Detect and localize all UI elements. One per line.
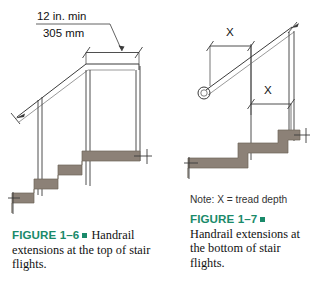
tread-depth-note: Note: X = tread depth [190, 194, 312, 205]
leader-arrowhead [119, 46, 125, 52]
figure-1-7-caption-text: Handrail extensions at the bottom of sta… [190, 227, 300, 270]
handrail-end-tick [11, 113, 20, 124]
square-bullet-icon [260, 217, 265, 222]
figure-page: 12 in. min 305 mm [0, 0, 312, 296]
figure-1-7-label: FIGURE 1–7 [190, 212, 257, 225]
handrail-top-line [17, 64, 139, 117]
figure-1-6-caption: FIGURE 1–6 Handrail extensions at the to… [12, 228, 164, 272]
square-bullet-icon [82, 233, 87, 238]
stair-profile [188, 130, 300, 178]
handrail-bottom-line [19, 70, 135, 122]
stair-profile [12, 151, 140, 213]
figure-1-7-illustration: X X [178, 0, 312, 195]
dimension-label-x-upper: X [226, 25, 234, 38]
dimension-label-metric: 305 mm [43, 27, 84, 39]
handrail-return-circle-outer [198, 87, 210, 99]
figure-1-6-label: FIGURE 1–6 [12, 228, 79, 241]
figure-1-6-illustration: 12 in. min 305 mm [0, 0, 178, 230]
handrail-return-circle-inner [201, 90, 207, 96]
figure-1-7-caption: FIGURE 1–7 Handrail extensions at the bo… [190, 212, 310, 270]
dimension-label-imperial: 12 in. min [37, 10, 86, 22]
handrail-top-line [206, 27, 292, 90]
dimension-label-x-lower: X [264, 83, 272, 96]
